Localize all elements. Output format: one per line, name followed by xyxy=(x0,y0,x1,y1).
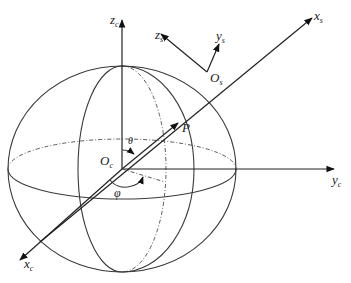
ys-axis xyxy=(207,44,219,72)
label-p: P xyxy=(181,120,190,135)
equator-front xyxy=(8,169,236,199)
label-yc: yc xyxy=(330,172,342,189)
label-phi: φ xyxy=(114,186,121,200)
label-xc: xc xyxy=(23,256,34,273)
label-ys: ys xyxy=(214,28,225,45)
label-zc: zc xyxy=(109,12,119,29)
label-oc: Oc xyxy=(100,153,113,170)
spherical-coordinate-diagram: zc zs ys xs Os P θ Oc φ yc xc xyxy=(0,0,351,283)
label-xs: xs xyxy=(313,8,323,25)
label-zs: zs xyxy=(154,27,163,44)
theta-arc xyxy=(122,150,134,154)
xc-axis xyxy=(20,169,122,260)
meridian-left xyxy=(78,66,122,272)
label-os: Os xyxy=(210,70,223,87)
label-theta: θ xyxy=(128,135,133,146)
op-vector xyxy=(122,123,178,169)
zs-axis xyxy=(161,34,207,72)
op-projection xyxy=(122,169,165,182)
